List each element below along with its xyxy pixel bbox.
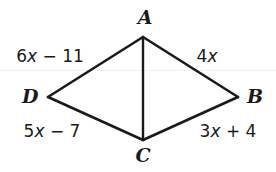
vertex-label-B: B (247, 87, 263, 106)
side-label-AB: 4x (197, 48, 218, 65)
side-label-BC: 3x + 4 (200, 123, 257, 140)
vertex-label-A: A (138, 8, 153, 27)
side-label-DA: 6x − 11 (16, 48, 84, 65)
vertex-label-C: C (135, 146, 150, 165)
geometry-figure: A B C D 6x − 11 4x 5x − 7 3x + 4 (0, 0, 276, 172)
side-label-CD: 5x − 7 (24, 123, 81, 140)
side-AB (143, 37, 238, 97)
vertex-label-D: D (22, 87, 38, 106)
